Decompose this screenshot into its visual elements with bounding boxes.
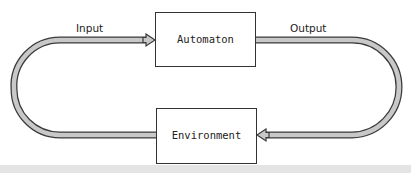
output-label: Output [290, 22, 326, 34]
environment-node: Environment [157, 109, 257, 164]
output-edge [255, 40, 399, 141]
output-arrow-outline [255, 40, 399, 135]
automaton-node: Automaton [156, 13, 256, 67]
input-label: Input [76, 22, 103, 34]
environment-label: Environment [172, 129, 242, 141]
automaton-environment-diagram: Automaton Environment Input Output [0, 0, 411, 173]
automaton-label: Automaton [177, 33, 234, 45]
output-arrow-body [255, 40, 399, 135]
input-arrow-body [14, 40, 156, 135]
input-arrow-outline [14, 40, 156, 135]
input-arrowhead-icon [143, 34, 155, 46]
bottom-strip [0, 165, 411, 173]
output-arrowhead-icon [257, 129, 269, 141]
input-edge [14, 34, 156, 135]
